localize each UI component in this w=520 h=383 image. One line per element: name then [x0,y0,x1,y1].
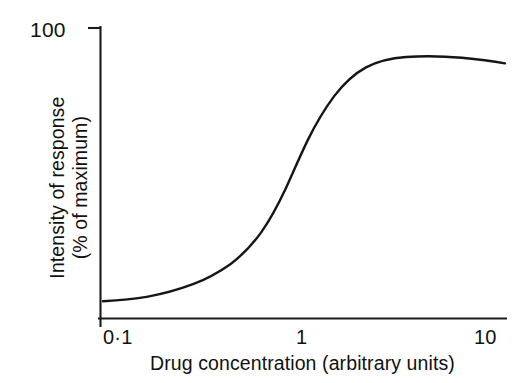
x-axis-tick-label-0-1: 0·1 [103,326,133,349]
x-axis-tick-label-10: 10 [474,326,497,349]
dose-response-figure: 100 0·1 1 10 Drug concentration (arbitra… [0,0,520,383]
x-axis-tick-label-1: 1 [296,326,307,349]
x-axis-title: Drug concentration (arbitrary units) [150,352,455,375]
dose-response-curve [103,56,505,301]
y-axis-title: Intensity of response (% of maximum) [46,43,91,333]
y-axis-title-line-1: Intensity of response [46,43,69,333]
y-axis-tick-label-100: 100 [30,18,66,42]
y-axis-title-line-2: (% of maximum) [69,43,92,333]
